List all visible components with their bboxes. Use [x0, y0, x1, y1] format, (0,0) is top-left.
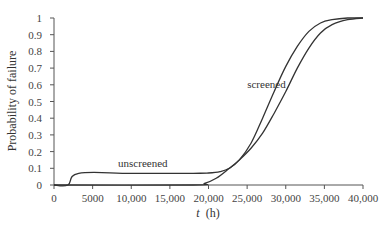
y-tick-label: 0.1: [28, 162, 42, 174]
data-series: [54, 18, 363, 186]
probability-of-failure-chart: 0500010,00015,00020,00025,00030,00035,00…: [0, 0, 389, 226]
y-tick-label: 0.6: [28, 79, 42, 91]
series-line-screened: [54, 18, 363, 185]
y-tick-label: 0.8: [28, 45, 42, 57]
y-tick-label: 0.9: [28, 29, 42, 41]
y-axis-label: Probability of failure: [5, 51, 19, 152]
x-tick-label: 40,000: [348, 192, 379, 204]
x-tick-label: 0: [51, 192, 57, 204]
y-axis-ticks: 00.10.20.30.40.50.60.70.80.91: [28, 12, 54, 191]
x-axis-variable: t: [196, 206, 200, 220]
series-line-unscreened: [54, 18, 363, 186]
x-tick-label: 10,000: [116, 192, 147, 204]
annotation-unscreened: unscreened: [118, 157, 168, 169]
y-tick-label: 0: [37, 179, 43, 191]
y-tick-label: 0.2: [28, 146, 42, 158]
x-tick-label: 30,000: [271, 192, 302, 204]
x-tick-label: 20,000: [193, 192, 224, 204]
y-tick-label: 0.7: [28, 62, 42, 74]
y-tick-label: 0.3: [28, 129, 42, 141]
y-tick-label: 0.4: [28, 112, 42, 124]
x-axis-ticks: 0500010,00015,00020,00025,00030,00035,00…: [51, 185, 378, 204]
axes: [54, 18, 363, 185]
x-tick-label: 15,000: [155, 192, 186, 204]
y-tick-label: 1: [37, 12, 43, 24]
annotation-screened: screened: [247, 78, 286, 90]
x-tick-label: 25,000: [232, 192, 263, 204]
x-axis-label: t (h): [196, 206, 219, 220]
x-tick-label: 35,000: [309, 192, 340, 204]
x-axis-unit: (h): [206, 206, 220, 220]
y-tick-label: 0.5: [28, 96, 42, 108]
x-tick-label: 5000: [82, 192, 105, 204]
